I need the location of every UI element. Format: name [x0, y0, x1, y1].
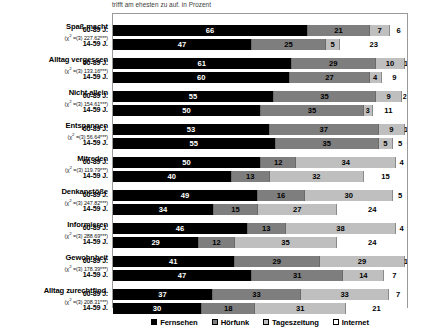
segment-value: 13 [262, 223, 270, 234]
bar-segment-hörfunk: 29 [234, 256, 319, 267]
legend-label: Hörfunk [221, 318, 249, 327]
legend-item: Hörfunk [212, 318, 249, 327]
segment-value: 1 [404, 256, 407, 267]
segment-value: 53 [187, 124, 195, 135]
segment-value: 24 [368, 204, 376, 215]
legend-label: Internet [342, 318, 369, 327]
segment-value: 41 [169, 256, 177, 267]
bar-segment-fernsehen: 60 [113, 72, 289, 83]
bar-segment-hörfunk: 15 [213, 204, 257, 215]
segment-value: 4 [373, 72, 377, 83]
bar-segment-tageszeitung: 14 [342, 270, 383, 281]
segment-value: 13 [246, 171, 254, 182]
legend-swatch-fernsehen [151, 319, 157, 325]
bar-segment-hörfunk: 33 [212, 289, 300, 300]
legend-item: Internet [333, 318, 369, 327]
bar-segment-tageszeitung: 27 [257, 204, 336, 215]
bar-segment-internet: 4 [395, 157, 407, 168]
segment-value: 49 [181, 190, 189, 201]
age-tick-label: 14-59 J. [62, 304, 108, 312]
segment-value: 34 [342, 157, 350, 168]
segment-value: 46 [176, 223, 184, 234]
segment-value: 33 [340, 289, 348, 300]
age-tick-label: 60-89 J. [62, 26, 108, 34]
segment-value: 5 [383, 138, 387, 149]
bar-segment-tageszeitung: 10 [375, 58, 404, 69]
bar-row: 4916305 [113, 190, 407, 201]
segment-value: 40 [168, 171, 176, 182]
bar-segment-fernsehen: 29 [113, 237, 198, 248]
segment-value: 9 [389, 124, 393, 135]
bar-segment-hörfunk: 25 [251, 39, 325, 50]
bar-segment-fernsehen: 37 [113, 289, 212, 300]
segment-value: 12 [212, 237, 220, 248]
segment-value: 24 [368, 237, 376, 248]
bar-segment-fernsehen: 55 [113, 138, 275, 149]
segment-value: 16 [277, 190, 285, 201]
bar-segment-hörfunk: 35 [260, 105, 363, 116]
segment-value: 35 [322, 138, 330, 149]
bar-row: 533791 [113, 124, 407, 135]
bar-segment-internet: 24 [336, 237, 407, 248]
bar-segment-fernsehen: 61 [113, 58, 291, 69]
segment-value: 30 [344, 190, 352, 201]
segment-value: 55 [190, 138, 198, 149]
bar-segment-hörfunk: 31 [251, 270, 342, 281]
bar-segment-tageszeitung: 5 [325, 39, 340, 50]
bar-segment-fernsehen: 49 [113, 190, 257, 201]
segment-value: 32 [312, 171, 320, 182]
segment-value: 55 [189, 91, 197, 102]
bar-segment-hörfunk: 13 [231, 171, 269, 182]
age-tick-label: 60-89 J. [62, 125, 108, 133]
bar-segment-tageszeitung: 7 [369, 25, 390, 36]
bar-segment-fernsehen: 30 [113, 303, 201, 314]
bar-segment-tageszeitung: 29 [319, 256, 404, 267]
bar-segment-fernsehen: 55 [113, 91, 273, 102]
segment-value: 21 [372, 303, 380, 314]
bar-segment-fernsehen: 66 [113, 25, 307, 36]
age-tick-label: 14-59 J. [62, 172, 108, 180]
segment-value: 15 [381, 171, 389, 182]
segment-value: 34 [159, 204, 167, 215]
segment-value: 10 [386, 58, 394, 69]
segment-value: 3 [366, 105, 370, 116]
age-tick-label: 60-89 J. [62, 257, 108, 265]
legend-swatch-internet [333, 319, 339, 325]
segment-value: 2 [403, 91, 407, 102]
segment-value: 50 [182, 105, 190, 116]
bar-segment-tageszeitung: 9 [375, 91, 401, 102]
age-tick-label: 14-59 J. [62, 139, 108, 147]
bar-segment-tageszeitung: 31 [254, 303, 345, 314]
legend-item: Fernsehen [151, 318, 198, 327]
segment-value: 60 [197, 72, 205, 83]
bar-segment-hörfunk: 29 [291, 58, 375, 69]
bar-segment-tageszeitung: 30 [304, 190, 392, 201]
age-tick-label: 60-89 J. [62, 92, 108, 100]
bar-segment-fernsehen: 46 [113, 223, 247, 234]
segment-value: 5 [398, 190, 402, 201]
age-tick-label: 60-89 J. [62, 191, 108, 199]
age-tick-label: 14-59 J. [62, 73, 108, 81]
bar-segment-fernsehen: 47 [113, 39, 251, 50]
segment-value: 31 [293, 270, 301, 281]
legend-swatch-hörfunk [212, 319, 218, 325]
segment-value: 50 [182, 157, 190, 168]
stacked-bar-chart: trifft am ehesten zu auf. in Prozent Spa… [0, 0, 421, 335]
segment-value: 1 [404, 58, 407, 69]
segment-value: 27 [293, 204, 301, 215]
age-tick-label: 14-59 J. [62, 205, 108, 213]
bar-segment-tageszeitung: 34 [295, 157, 395, 168]
segment-value: 27 [325, 72, 333, 83]
age-tick-label: 14-59 J. [62, 106, 108, 114]
bar-row: 4725523 [113, 39, 407, 50]
bar-row: 4129291 [113, 256, 407, 267]
segment-value: 33 [252, 289, 260, 300]
segment-value: 21 [334, 25, 342, 36]
bar-row: 5012344 [113, 157, 407, 168]
bar-row: 662176 [113, 25, 407, 36]
bar-segment-internet: 7 [383, 270, 404, 281]
bar-row: 34152724 [113, 204, 407, 215]
bar-row: 29123524 [113, 237, 407, 248]
bar-segment-fernsehen: 41 [113, 256, 234, 267]
segment-value: 35 [320, 91, 328, 102]
